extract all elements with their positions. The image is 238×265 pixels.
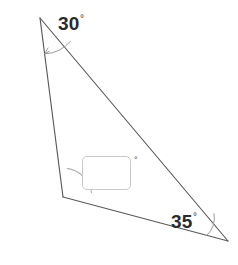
top-angle-value: 30	[58, 13, 80, 34]
triangle-figure	[0, 0, 238, 265]
degree-symbol-icon: °	[193, 211, 197, 222]
unknown-angle-input[interactable]	[82, 156, 131, 190]
bottom-right-angle-label: 35°	[171, 212, 197, 231]
bottom-right-angle-value: 35	[171, 211, 193, 232]
top-angle-label: 30°	[58, 14, 84, 33]
degree-symbol-icon: °	[80, 13, 84, 24]
triangle-side-hypotenuse	[40, 18, 228, 241]
triangle-side-left	[40, 18, 63, 197]
top-angle-arc-arrowhead	[45, 48, 50, 54]
answer-degree-symbol-icon: °	[134, 156, 138, 165]
triangle-side-bottom	[63, 197, 228, 241]
figure-canvas: 30° 35° °	[0, 0, 238, 265]
